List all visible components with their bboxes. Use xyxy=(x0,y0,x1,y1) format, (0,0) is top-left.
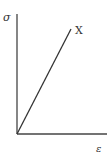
line-label: X xyxy=(75,24,83,37)
stress-strain-diagram: σ X ε xyxy=(0,0,110,155)
x-axis-label: ε xyxy=(96,143,101,154)
line-x xyxy=(17,29,71,134)
y-axis-label: σ xyxy=(3,11,11,24)
